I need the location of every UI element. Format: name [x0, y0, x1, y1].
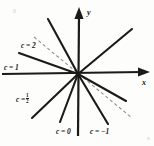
- label-c-equals-one-half: c =12: [16, 93, 29, 105]
- x-axis-line: [2, 72, 142, 74]
- label-c-equals-0: c = 0: [56, 128, 71, 136]
- ray-upper-right: [78, 29, 132, 74]
- fraction-denominator: 2: [26, 99, 29, 104]
- x-axis-arrowhead: [138, 67, 150, 76]
- y-axis-line: [78, 16, 79, 136]
- y-axis-label: y: [87, 9, 91, 17]
- label-c-half-prefix: c =: [16, 95, 25, 104]
- label-c-equals-1: c = 1: [4, 64, 19, 72]
- fraction-one-half: 12: [26, 93, 29, 105]
- figure-canvas: [0, 0, 154, 146]
- label-c-equals-negative-1: c = −1: [90, 128, 109, 136]
- x-axis-label: x: [142, 79, 146, 87]
- ray-chalf-lower-left: [32, 74, 78, 118]
- label-c-equals-2: c = 2: [21, 42, 36, 50]
- level-curve-figure: c = 2 c = 1 c =12 c = 0 c = −1 x y: [0, 0, 154, 146]
- y-axis-arrowhead: [74, 7, 83, 19]
